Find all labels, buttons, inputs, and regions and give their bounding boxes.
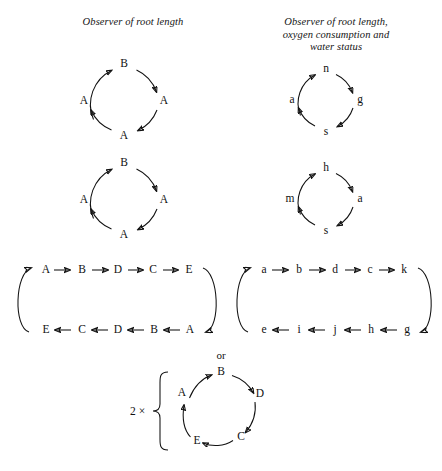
cycle-2-left-node-top: B (120, 157, 128, 169)
cycle-2-right-node-bottom: s (324, 225, 328, 237)
diagram-arcs (0, 0, 442, 471)
loop-left-top-0: A (42, 264, 50, 276)
cycle-2-left-node-left: A (80, 194, 88, 206)
loop-right-top-2: d (332, 264, 338, 276)
cycle-2-right-node-top: h (323, 162, 329, 174)
cycle-1-right-node-left: a (289, 94, 294, 106)
loop-left-top-4: E (185, 264, 192, 276)
loop-right-top-1: b (296, 264, 302, 276)
loop-left-bottom-3: B (150, 324, 158, 336)
loop-right-top-4: k (401, 264, 407, 276)
cycle-2-right-node-right: a (357, 193, 362, 205)
cycle-2-left-arcs (90, 169, 157, 230)
loop-right-top-3: c (367, 264, 372, 276)
cycle-1-left-arcs (90, 70, 157, 131)
cycle-bottom-node-top: B (217, 366, 225, 378)
cycle-1-left-node-right: A (160, 95, 168, 107)
loop-right-bottom-4: g (404, 324, 410, 336)
cycle-1-right-node-right: g (357, 94, 363, 106)
loop-left-bottom-4: A (186, 324, 194, 336)
heading-right: Observer of root length, oxygen consumpt… (248, 16, 424, 54)
multiplier-label: 2 × (130, 405, 145, 417)
curly-brace (153, 372, 168, 450)
loop-right-top-0: a (261, 264, 266, 276)
cycle-2-right-node-left: m (286, 193, 295, 205)
cycle-1-right-arcs (298, 75, 353, 127)
heading-right-line-1: Observer of root length, (248, 16, 424, 29)
loop-left-top-1: B (78, 264, 86, 276)
loop-right-bottom-2: j (333, 324, 336, 336)
loop-left-bottom-0: E (42, 324, 49, 336)
cycle-1-left-node-left: A (80, 95, 88, 107)
loop-right-bottom-1: i (297, 324, 300, 336)
cycle-1-left-node-top: B (120, 58, 128, 70)
or-label: or (0, 349, 442, 361)
loop-right-bottom-3: h (368, 324, 374, 336)
cycle-1-right-node-top: n (323, 63, 329, 75)
cycle-bottom-node-right: D (256, 388, 264, 400)
cycle-2-left-node-right: A (160, 194, 168, 206)
cycle-2-right-arcs (298, 174, 353, 226)
loop-left-bottom-2: D (114, 324, 122, 336)
loop-right-bottom-0: e (261, 324, 266, 336)
cycle-2-left-node-bottom: A (120, 229, 128, 241)
loop-left-bottom-1: C (78, 324, 86, 336)
diagram-canvas: Observer of root length Observer of root… (0, 0, 442, 471)
cycle-bottom-node-left: A (178, 387, 186, 399)
loop-left-top-3: C (149, 264, 157, 276)
loop-left-top-2: D (114, 264, 122, 276)
cycle-1-left-node-bottom: A (120, 130, 128, 142)
heading-left: Observer of root length (38, 16, 228, 29)
heading-left-line-1: Observer of root length (38, 16, 228, 29)
cycle-bottom-node-lower-right: C (237, 431, 245, 443)
heading-right-line-2: oxygen consumption and (248, 29, 424, 42)
heading-right-line-3: water status (248, 41, 424, 54)
cycle-bottom-node-lower-left: E (193, 435, 200, 447)
cycle-1-right-node-bottom: s (324, 126, 328, 138)
